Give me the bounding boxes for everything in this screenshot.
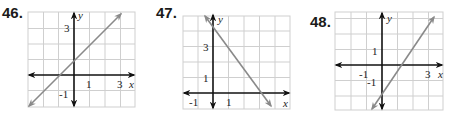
tick-label: -1: [367, 76, 376, 88]
tick-label: 3: [203, 41, 209, 53]
y-axis-label: y: [386, 12, 392, 24]
graph-48: y x 1 -1 -1 3: [335, 12, 443, 110]
y-axis-label: y: [77, 9, 83, 21]
graph-47: y x 3 1 -1 1: [183, 13, 290, 109]
graphs-canvas: y x 3 -1 1 3 y x 3 1 -1 1: [0, 0, 455, 121]
x-axis-label: x: [282, 97, 288, 109]
tick-label: -1: [59, 88, 68, 100]
tick-label: 1: [372, 45, 378, 57]
y-axis-label: y: [217, 13, 223, 25]
tick-label: 3: [117, 78, 123, 90]
grid: [28, 12, 135, 107]
graph-46: y x 3 -1 1 3: [28, 9, 135, 107]
tick-label: 3: [425, 68, 431, 80]
x-axis-label: x: [128, 78, 134, 90]
tick-label: 1: [226, 96, 232, 108]
tick-label: -1: [359, 68, 368, 80]
tick-label: 1: [203, 72, 209, 84]
tick-label: 3: [64, 22, 70, 34]
x-axis-label: x: [437, 68, 443, 80]
grid: [183, 16, 290, 109]
tick-label: 1: [86, 78, 92, 90]
tick-label: -1: [189, 96, 198, 108]
